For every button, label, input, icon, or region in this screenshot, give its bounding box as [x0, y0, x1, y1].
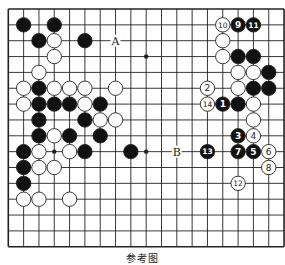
black-stone	[93, 129, 107, 143]
stone-disc	[262, 65, 276, 79]
white-stone	[231, 81, 245, 95]
stone-disc	[32, 160, 46, 174]
move-number: 9	[235, 20, 241, 30]
black-stone: 9	[231, 18, 245, 32]
black-stone	[32, 34, 46, 48]
white-stone	[93, 113, 107, 127]
black-stone: 7	[231, 144, 245, 158]
white-stone	[231, 65, 245, 79]
stone-disc	[62, 81, 76, 95]
white-stone	[246, 113, 260, 127]
white-stone	[47, 129, 61, 143]
stone-disc	[32, 129, 46, 143]
marker-label-b: B	[173, 146, 181, 159]
stone-disc	[93, 97, 107, 111]
white-stone	[62, 81, 76, 95]
white-stone	[32, 192, 46, 206]
stone-disc	[32, 34, 46, 48]
black-stone	[16, 144, 30, 158]
black-stone	[246, 49, 260, 63]
move-number: 8	[266, 163, 272, 173]
move-number: 4	[251, 131, 257, 141]
stone-disc	[231, 81, 245, 95]
white-stone	[246, 65, 260, 79]
stone-disc	[231, 65, 245, 79]
move-number: 5	[250, 147, 256, 157]
stone-disc	[108, 113, 122, 127]
black-stone	[32, 81, 46, 95]
white-stone: 14	[200, 97, 214, 111]
stone-disc	[62, 97, 76, 111]
stone-disc	[32, 65, 46, 79]
white-stone	[47, 81, 61, 95]
stone-disc	[216, 34, 230, 48]
white-stone	[47, 34, 61, 48]
stone-disc	[47, 129, 61, 143]
stone-disc	[47, 18, 61, 32]
stone-disc	[32, 113, 46, 127]
stone-disc	[47, 49, 61, 63]
stone-disc	[78, 34, 92, 48]
white-stone	[216, 49, 230, 63]
stone-disc	[16, 81, 30, 95]
star-point	[52, 149, 56, 153]
stone-disc	[262, 81, 276, 95]
white-stone	[47, 160, 61, 174]
white-stone	[216, 34, 230, 48]
move-number: 13	[202, 147, 212, 156]
white-stone	[32, 65, 46, 79]
stone-disc	[16, 160, 30, 174]
white-stone	[78, 97, 92, 111]
black-stone	[78, 113, 92, 127]
move-number: 6	[266, 147, 272, 157]
move-number: 1	[220, 99, 226, 109]
diagram-caption: 参考图	[0, 250, 285, 265]
black-stone	[124, 144, 138, 158]
stone-disc	[16, 97, 30, 111]
stone-disc	[246, 65, 260, 79]
black-stone	[62, 129, 76, 143]
stone-disc	[47, 81, 61, 95]
white-stone	[32, 160, 46, 174]
white-stone: 10	[216, 18, 230, 32]
stone-disc	[246, 113, 260, 127]
black-stone	[16, 18, 30, 32]
stone-disc	[216, 49, 230, 63]
stone-disc	[62, 129, 76, 143]
move-number: 12	[233, 179, 243, 188]
white-stone: 12	[231, 176, 245, 190]
stone-disc	[78, 81, 92, 95]
black-stone: 1	[216, 97, 230, 111]
black-stone	[32, 97, 46, 111]
marker-label-a: A	[111, 35, 121, 48]
move-number: 3	[235, 131, 241, 141]
stone-disc	[78, 144, 92, 158]
move-number: 7	[235, 147, 241, 157]
stone-disc	[108, 81, 122, 95]
white-stone	[108, 81, 122, 95]
stone-disc	[16, 176, 30, 190]
stone-disc	[231, 97, 245, 111]
white-stone: 4	[246, 129, 260, 143]
black-stone	[32, 113, 46, 127]
black-stone	[78, 34, 92, 48]
stone-disc	[47, 160, 61, 174]
black-stone	[32, 129, 46, 143]
stone-disc	[62, 192, 76, 206]
stone-disc	[47, 34, 61, 48]
stone-disc	[246, 97, 260, 111]
stone-disc	[246, 81, 260, 95]
black-stone	[16, 176, 30, 190]
stone-disc	[246, 49, 260, 63]
stone-disc	[62, 144, 76, 158]
move-number: 2	[205, 83, 211, 93]
black-stone: 3	[231, 129, 245, 143]
white-stone: 2	[200, 81, 214, 95]
move-number: 11	[248, 21, 258, 30]
white-stone: 6	[262, 144, 276, 158]
white-stone	[62, 192, 76, 206]
stone-disc	[231, 49, 245, 63]
move-number: 14	[203, 100, 213, 109]
stone-disc	[78, 97, 92, 111]
